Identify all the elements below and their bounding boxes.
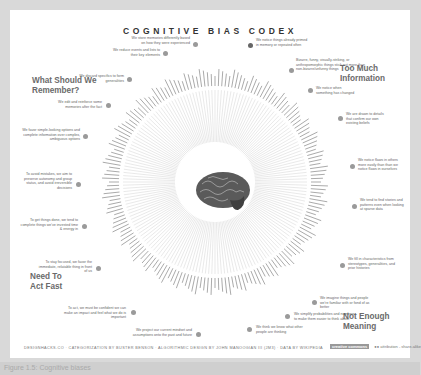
license-icon: ●● (374, 344, 379, 349)
category-dot-icon (106, 103, 111, 108)
license-info: creative commons ●● attribution - share-… (330, 344, 421, 349)
license-text: attribution - share-alike (380, 344, 421, 349)
note-project: We project our current mindset and assum… (128, 328, 192, 337)
category-dot-icon (285, 314, 290, 319)
quadrant-label-line: Meaning (343, 322, 389, 332)
category-dot-icon (196, 332, 201, 337)
brain-icon (194, 170, 256, 212)
note-flaws: We notice flaws in others more easily th… (358, 158, 404, 172)
category-dot-icon (163, 51, 168, 56)
quadrant-label-line: Remember? (32, 86, 96, 96)
category-dot-icon (248, 43, 253, 48)
note-primed: We notice things already primed in memor… (256, 38, 308, 47)
note-bizarre: Bizarre, funny, visually-striking, or an… (296, 58, 366, 72)
note-discard: We discard specifics to form generalitie… (78, 74, 124, 83)
category-dot-icon (82, 224, 87, 229)
codex-card: COGNITIVE BIAS CODEX What Should We Reme… (10, 10, 410, 358)
category-dot-icon (350, 164, 355, 169)
category-dot-icon (131, 310, 136, 315)
note-drawn: We are drawn to details that confirm our… (346, 112, 388, 126)
note-avoid: To avoid mistakes, we aim to preserve au… (14, 172, 72, 190)
credits-footer: DESIGNHACKS.CO · CATEGORIZATION BY BUSTE… (24, 346, 323, 350)
category-dot-icon (308, 88, 313, 93)
category-dot-icon (340, 263, 345, 268)
note-edit: We edit and reinforce some memories afte… (44, 100, 102, 109)
note-probs: We simplify probabilities and numbers to… (294, 312, 358, 321)
figure-caption: Figure 1.5: Cognitive biases (4, 364, 91, 371)
note-think: We think we know what other people are t… (256, 325, 308, 334)
note-focus: To stay focused, we favor the immediate,… (36, 260, 92, 274)
note-getdone: To get things done, we tend to complete … (20, 218, 78, 232)
note-stories: We tend to find stories and patterns eve… (360, 198, 406, 212)
category-dot-icon (83, 134, 88, 139)
figure-caption-strip: Figure 1.5: Cognitive biases (0, 362, 420, 375)
category-dot-icon (76, 182, 81, 187)
creative-commons-badge: creative commons (330, 344, 369, 349)
category-dot-icon (352, 204, 357, 209)
note-fillin: We fill in characteristics from stereoty… (348, 257, 402, 271)
category-dot-icon (96, 266, 101, 271)
category-dot-icon (247, 327, 252, 332)
category-dot-icon (289, 68, 294, 73)
category-dot-icon (193, 42, 198, 47)
quadrant-label-line: Information (340, 74, 385, 84)
category-dot-icon (312, 300, 317, 305)
note-changed: We notice when something has changed (316, 86, 358, 95)
note-store: We store memories differently based on h… (128, 36, 190, 45)
quadrant-label-line: Act Fast (30, 282, 62, 292)
note-simple: We favor simple-looking options and comp… (16, 128, 80, 142)
note-imagine: We imagine things and people we're famil… (320, 296, 374, 310)
note-reduce: We reduce events and lists to their key … (106, 48, 160, 57)
note-act: To act, we must be confident we can make… (62, 306, 126, 320)
category-dot-icon (127, 77, 132, 82)
quadrant-need-to-act-fast: Need To Act Fast (30, 272, 62, 292)
category-dot-icon (338, 116, 343, 121)
